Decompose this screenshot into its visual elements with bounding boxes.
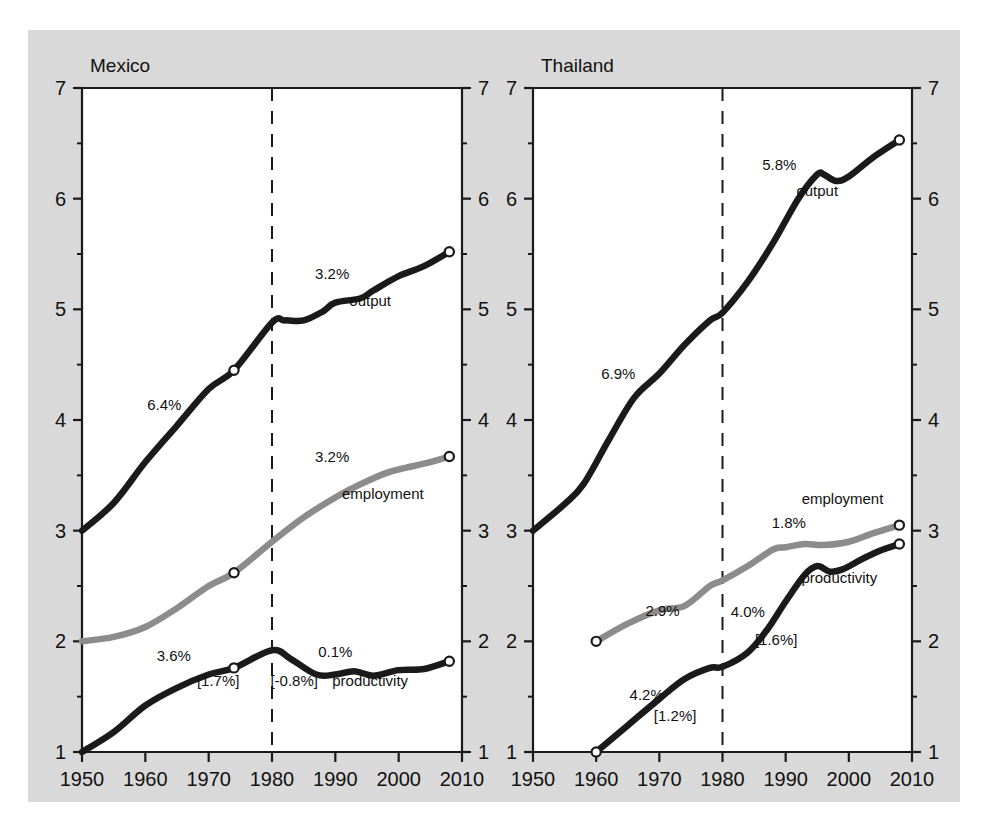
panel-title: Mexico [90,55,150,76]
y-tick-label-left: 1 [55,741,66,763]
y-tick-label-right: 5 [478,298,489,320]
y-tick-label-right: 3 [478,520,489,542]
x-tick-label: 1990 [763,768,808,790]
y-tick-label-right: 1 [928,741,939,763]
marker-productivity [445,657,454,666]
figure-root: Mexico1122334455667719501960197019801990… [0,0,983,822]
marker-output [445,247,454,256]
growth-rate-annotation: [1.7%] [197,672,240,689]
y-tick-label-right: 7 [928,77,939,99]
y-tick-label-left: 5 [506,298,517,320]
x-tick-label: 2000 [827,768,872,790]
growth-rate-annotation: 6.9% [601,365,635,382]
y-tick-label-right: 7 [478,77,489,99]
y-tick-label-left: 4 [506,409,517,431]
marker-productivity [592,747,601,756]
series-label-output: output [796,182,839,199]
growth-rate-annotation: 4.0% [731,603,765,620]
growth-rate-annotation: 3.2% [315,265,349,282]
marker-output [895,135,904,144]
x-tick-label: 2010 [890,768,935,790]
growth-rate-annotation: 2.9% [645,602,679,619]
series-label-employment: employment [802,490,885,507]
growth-rate-annotation: 4.2% [630,686,664,703]
y-tick-label-right: 6 [478,188,489,210]
two-panel-line-chart: Mexico1122334455667719501960197019801990… [0,0,983,822]
y-tick-label-left: 4 [55,409,66,431]
y-tick-label-right: 4 [478,409,489,431]
y-tick-label-right: 4 [928,409,939,431]
growth-rate-annotation: [1.2%] [654,707,697,724]
growth-rate-annotation: 3.6% [157,647,191,664]
chart-panel-thailand: Thailand11223344556677195019601970198019… [506,55,939,790]
x-tick-label: 1980 [250,768,295,790]
series-label-productivity: productivity [801,569,877,586]
x-tick-label: 1970 [637,768,682,790]
marker-employment [229,568,238,577]
marker-employment [592,637,601,646]
marker-output [229,366,238,375]
y-tick-label-right: 2 [478,630,489,652]
x-tick-label: 1990 [313,768,358,790]
y-tick-label-left: 7 [506,77,517,99]
marker-productivity [895,539,904,548]
y-tick-label-left: 1 [506,741,517,763]
y-tick-label-right: 5 [928,298,939,320]
series-label-productivity: productivity [332,672,408,689]
growth-rate-annotation: 0.1% [318,643,352,660]
x-tick-label: 1960 [123,768,168,790]
growth-rate-annotation: 6.4% [147,396,181,413]
growth-rate-annotation: [-0.8%] [270,672,318,689]
y-tick-label-right: 2 [928,630,939,652]
growth-rate-annotation: 1.8% [772,514,806,531]
panel-title: Thailand [541,55,614,76]
y-tick-label-left: 2 [506,630,517,652]
x-tick-label: 1980 [700,768,745,790]
y-tick-label-right: 3 [928,520,939,542]
x-tick-label: 2000 [376,768,421,790]
y-tick-label-left: 7 [55,77,66,99]
y-tick-label-left: 2 [55,630,66,652]
x-tick-label: 1970 [186,768,231,790]
x-tick-label: 1960 [574,768,619,790]
series-label-employment: employment [342,485,425,502]
y-tick-label-left: 3 [55,520,66,542]
y-tick-label-left: 6 [506,188,517,210]
x-tick-label: 1950 [511,768,556,790]
growth-rate-annotation: 5.8% [762,156,796,173]
y-tick-label-left: 5 [55,298,66,320]
y-tick-label-right: 1 [478,741,489,763]
y-tick-label-left: 3 [506,520,517,542]
chart-panel-mexico: Mexico1122334455667719501960197019801990… [55,55,489,790]
series-label-output: output [349,292,392,309]
growth-rate-annotation: 3.2% [315,448,349,465]
marker-employment [445,452,454,461]
growth-rate-annotation: [1.6%] [755,631,798,648]
y-tick-label-left: 6 [55,188,66,210]
x-tick-label: 1950 [60,768,105,790]
y-tick-label-right: 6 [928,188,939,210]
marker-employment [895,521,904,530]
x-tick-label: 2010 [440,768,485,790]
